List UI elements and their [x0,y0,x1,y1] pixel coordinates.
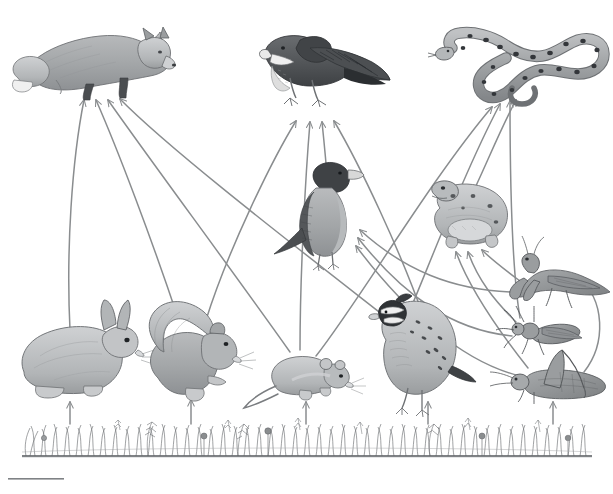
caption-rule [8,478,64,480]
mouse-ear-left [320,359,332,370]
squirrel-head [201,333,236,370]
squirrel-eye [224,342,229,346]
cricket-eye [515,326,518,329]
fox-eye [158,50,162,53]
grasshopper-head [511,374,529,390]
quail-beak [369,314,379,320]
falcon-eye [281,46,285,49]
mouse-ear-right [335,361,345,370]
food-web-diagram: Red Fox Peregrine Falcon Spotted Snake A… [0,0,613,494]
mantis-eye [525,258,529,261]
mouse-hind-foot [299,390,312,400]
food-web-canvas [0,0,613,494]
robin-eye [338,172,342,175]
toad-foot-rear [485,235,497,247]
ground-line [22,455,592,457]
squirrel-hind-foot [185,388,204,401]
snake-eye [447,50,450,53]
grasshopper-eye [515,378,518,381]
fox-nose [172,63,176,66]
cricket-head [512,323,524,335]
toad-eye [441,186,445,189]
snake-head [435,47,454,60]
rabbit-eye [124,338,129,343]
toad-foot-front [446,236,458,248]
mouse-eye [339,374,343,378]
quail-eye [385,311,388,314]
